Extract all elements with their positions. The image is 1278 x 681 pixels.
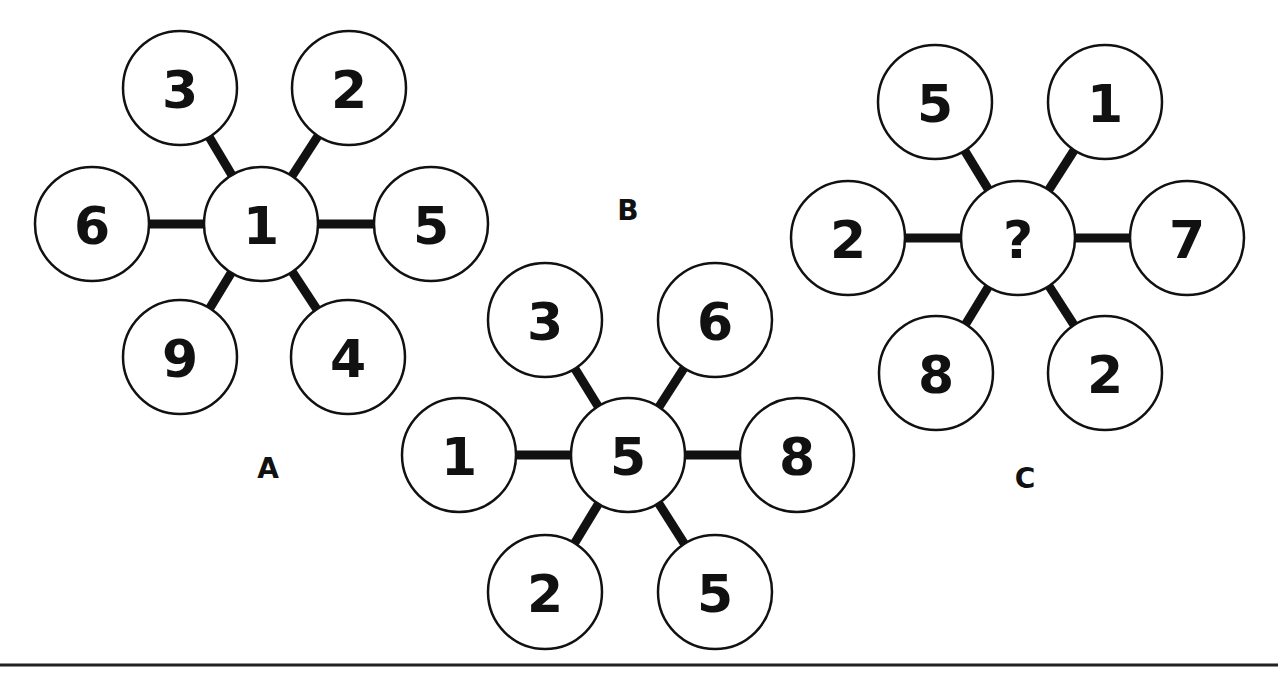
spoke-line [575,504,599,543]
spoke-line [292,136,318,176]
spoke-line [292,272,317,310]
node-value: 3 [527,292,563,352]
node-value: 5 [917,74,953,134]
spoke-line [659,368,684,407]
outer-node: 2 [488,535,602,649]
outer-node: 2 [1048,316,1162,430]
spoke-line [1049,150,1075,190]
node-value: 3 [162,60,198,120]
spoke-line [575,369,598,407]
center-node: 1 [204,167,318,281]
diagram-label: A [257,452,279,485]
outer-node: 8 [879,316,993,430]
node-value: 6 [697,292,733,352]
node-value: 8 [918,345,954,405]
node-value: 4 [330,329,366,389]
node-value: 9 [162,329,198,389]
diagrams-group: 3265941A3618255B512782?C [35,31,1244,649]
spoke-line [966,287,989,325]
node-value: 5 [610,427,646,487]
unknown-center-node: ? [961,181,1075,295]
node-value: 1 [1087,74,1123,134]
puzzle-canvas: 3265941A3618255B512782?C [0,0,1278,681]
center-node: 5 [571,398,685,512]
diagram-label: B [617,194,638,227]
spoke-line [209,137,232,175]
spoke-line [210,273,232,309]
spoke-line [1049,286,1074,325]
node-value: 8 [779,427,815,487]
outer-node: 7 [1130,181,1244,295]
diagram-label: C [1015,462,1036,495]
outer-node: 6 [658,263,772,377]
node-value: 2 [527,564,563,624]
outer-node: 3 [488,263,602,377]
diagram-c: 512782?C [791,45,1244,495]
outer-node: 5 [374,167,488,281]
node-value: 2 [331,60,367,120]
outer-node: 1 [1048,45,1162,159]
spoke-line [659,503,685,544]
outer-node: 2 [791,181,905,295]
outer-node: 6 [35,167,149,281]
node-value: 5 [697,564,733,624]
outer-node: 5 [878,45,992,159]
outer-node: 2 [292,31,406,145]
node-value: 2 [1087,345,1123,405]
node-value: 6 [74,196,110,256]
node-value: 5 [413,196,449,256]
node-value: 1 [243,196,279,256]
node-value: 7 [1169,210,1205,270]
outer-node: 1 [402,398,516,512]
outer-node: 4 [291,300,405,414]
outer-node: 9 [123,300,237,414]
outer-node: 3 [123,31,237,145]
outer-node: 5 [658,535,772,649]
node-value: ? [1003,210,1033,270]
spoke-line [965,151,989,190]
node-value: 2 [830,210,866,270]
outer-node: 8 [740,398,854,512]
node-value: 1 [441,427,477,487]
